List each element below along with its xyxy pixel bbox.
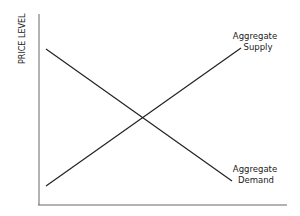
supply-label-line2: Supply: [244, 42, 273, 52]
aggregate-supply-line: [46, 48, 241, 186]
demand-label-line2: Demand: [238, 175, 274, 185]
ad-as-diagram: PRICE LEVEL Aggregate Supply Aggregate D…: [0, 0, 300, 216]
supply-label-line1: Aggregate: [233, 31, 277, 41]
aggregate-demand-line: [46, 49, 232, 181]
demand-label-line1: Aggregate: [233, 164, 277, 174]
y-axis-label: PRICE LEVEL: [18, 13, 27, 64]
